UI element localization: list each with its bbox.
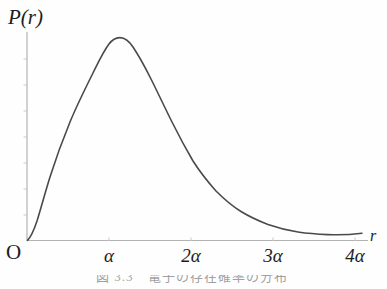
x-tick-label-3alpha: 3α xyxy=(262,245,284,266)
figure-caption-strip: 図 3.3 電子の存在確率の分布 xyxy=(0,275,387,289)
x-tick-label-2alpha: 2α xyxy=(181,245,202,266)
x-tick-label-alpha: α xyxy=(104,245,115,266)
origin-label: O xyxy=(6,240,21,264)
x-axis-label: r xyxy=(370,227,377,244)
x-tick-label-4alpha: 4α xyxy=(345,245,366,266)
probability-curve xyxy=(28,38,363,241)
y-axis-label: P(r) xyxy=(7,5,43,29)
plot-canvas: P(r) r O α 2α 3α 4α xyxy=(0,0,387,289)
figure-caption: 図 3.3 電子の存在確率の分布 xyxy=(96,275,288,285)
figure-page: P(r) r O α 2α 3α 4α 図 3.3 電子の存在確率の分布 xyxy=(0,0,387,289)
